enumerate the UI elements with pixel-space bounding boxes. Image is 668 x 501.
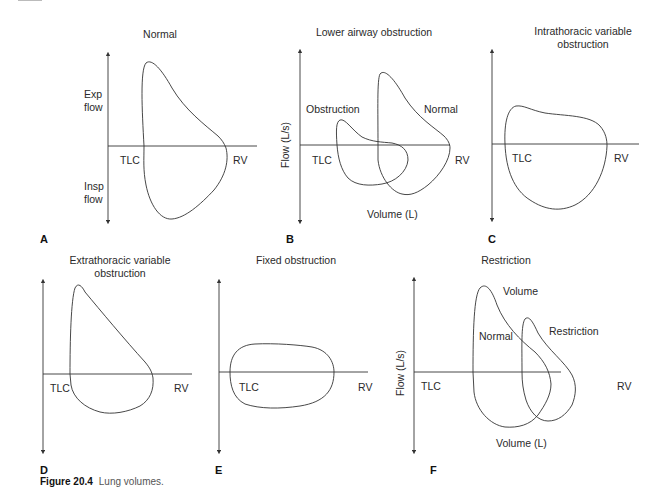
insp-label-line1: Insp [84,180,104,192]
tlc-label: TLC [312,154,332,166]
panel-letter-c: C [488,233,496,245]
panel-f-title: Restriction [481,254,531,266]
panel-b-title: Lower airway obstruction [316,26,432,38]
tlc-label: TLC [120,154,140,166]
panel-letter-e: E [215,464,222,476]
exp-label-line1: Exp [84,88,102,100]
panel-letter-d: D [40,464,48,476]
panel-letter-a: A [40,233,48,245]
panel-c: Intrathoracic variable obstruction TLC R… [488,25,639,245]
obstruction-label: Obstruction [306,103,360,115]
panel-b: Lower airway obstruction Obstruction Nor… [279,26,469,245]
figure-number: Figure 20.4 [40,476,93,487]
normal-loop-curve [378,72,450,194]
rv-label: RV [174,382,188,394]
panel-c-title-line1: Intrathoracic variable [534,25,632,37]
normal-label: Normal [424,103,458,115]
panel-e-title: Fixed obstruction [256,254,336,266]
panel-d-title-line1: Extrathoracic variable [70,254,171,266]
rv-label: RV [617,380,631,392]
rv-label: RV [358,381,372,393]
normal-label: Normal [479,330,513,342]
panel-d: Extrathoracic variable obstruction TLC R… [40,254,192,476]
panel-c-title-line2: obstruction [557,38,609,50]
panel-letter-f: F [430,464,437,476]
x-axis-label: Volume (L) [367,208,418,220]
panel-a-title: Normal [143,28,177,40]
obstruction-loop-curve [336,120,408,185]
rv-label: RV [455,154,469,166]
rv-label: RV [614,152,628,164]
insp-label-line2: flow [84,193,103,205]
extrathoracic-loop-curve [70,285,153,413]
exp-label-line2: flow [84,101,103,113]
panel-a: Normal Exp flow Insp flow TLC RV A [40,28,257,245]
panel-d-title-line2: obstruction [94,267,146,279]
y-axis-label: Flow (L/s) [279,122,291,168]
restriction-label: Restriction [549,325,599,337]
tlc-label: TLC [512,152,532,164]
tlc-label: TLC [50,382,70,394]
tlc-label: TLC [239,381,259,393]
panel-f: Restriction Volume Normal Restriction TL… [394,254,631,476]
figure-caption: Figure 20.4Lung volumes. [40,476,164,487]
volume-label: Volume [503,285,538,297]
x-axis-label: Volume (L) [496,437,547,449]
panel-letter-b: B [286,233,294,245]
normal-loop-curve [473,286,551,427]
panel-e: Fixed obstruction TLC RV E [215,254,372,476]
flow-volume-loops-figure: Normal Exp flow Insp flow TLC RV A Lower… [0,0,668,501]
rv-label: RV [233,154,247,166]
fixed-obstruction-loop-curve [230,344,334,408]
normal-loop-curve [142,62,227,219]
tlc-label: TLC [421,380,441,392]
y-axis-label: Flow (L/s) [394,350,406,396]
figure-caption-text: Lung volumes. [99,476,164,487]
